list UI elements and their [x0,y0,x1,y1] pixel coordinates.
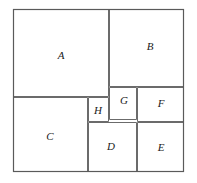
region-label-a: A [57,49,65,61]
region-label-g: G [120,94,128,106]
dissection-figure: ABCHGFDE [0,0,197,183]
region-label-f: F [157,97,165,109]
dissection-svg: ABCHGFDE [0,0,197,183]
region-label-d: D [106,140,115,152]
region-label-e: E [157,141,165,153]
region-label-b: B [147,40,154,52]
region-label-h: H [93,104,103,116]
region-label-c: C [46,130,54,142]
